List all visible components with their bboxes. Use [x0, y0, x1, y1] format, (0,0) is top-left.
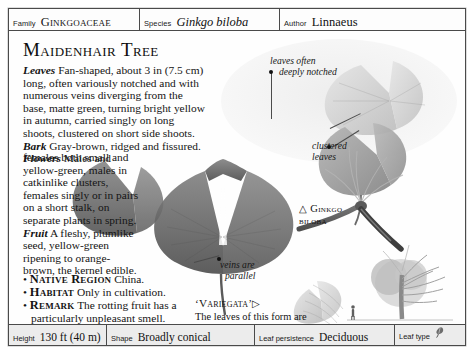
footer-cell-leaf-persistence: Leaf persistence Deciduous — [254, 325, 394, 345]
annotation-leaves-deeply-notched: leaves often deeply notched — [270, 56, 337, 77]
human-scale-figure — [351, 305, 355, 320]
description-bark-text: Gray-brown, ridged and fissured. — [49, 140, 201, 152]
triangle-marker-icon: △ — [299, 204, 307, 214]
footer-row: Height 130 ft (40 m) Shape Broadly conic… — [9, 324, 465, 345]
bullet-term-habitat: Habitat — [30, 285, 74, 299]
header-cell-author: Author Linnaeus — [279, 9, 465, 30]
right-triangle-marker-icon: ▷ — [252, 299, 260, 309]
footer-value-leaf-persistence: Deciduous — [319, 331, 368, 343]
footer-value-shape: Broadly conical — [138, 331, 211, 343]
annotation-clustered-line2: leaves — [312, 152, 347, 163]
leader-line-clustered — [330, 113, 361, 129]
header-row: Family Ginkgoaceae Species Ginkgo biloba… — [9, 9, 465, 31]
annotation-clustered-leaves: clustered leaves — [312, 141, 347, 162]
footer-cell-height: Height 130 ft (40 m) — [9, 325, 106, 345]
tree-habit-illustration — [347, 245, 453, 320]
header-value-author: Linnaeus — [312, 15, 358, 30]
annotation-notched-line2: deeply notched — [279, 67, 337, 78]
page-title: Maidenhair Tree — [23, 39, 159, 61]
footer-cell-shape: Shape Broadly conical — [106, 325, 254, 345]
variegata-caption-title: ‘Variegata’ — [195, 297, 252, 309]
header-label-species: Species — [144, 19, 171, 28]
variegata-caption-body: The leaves of this form are banded with … — [195, 311, 310, 325]
leader-line-veins — [194, 255, 219, 263]
entry-body: Maidenhair Tree Leaves Fan-shaped, about… — [9, 31, 465, 324]
specimen-caption: △ Ginkgo biloba — [299, 203, 342, 227]
leader-line-notched — [271, 73, 272, 119]
annotation-clustered-line1: clustered — [312, 141, 347, 152]
footer-value-height: 130 ft (40 m) — [40, 331, 101, 343]
bullet-text-native-region: China. — [114, 273, 144, 285]
header-value-species: Ginkgo biloba — [176, 15, 248, 30]
description-top: Leaves Fan-shaped, about 3 in (7.5 cm) l… — [23, 64, 206, 165]
header-value-family: Ginkgoaceae — [41, 15, 111, 30]
term-leaves: Leaves — [23, 64, 55, 76]
fan-leaf-icon — [434, 325, 447, 339]
fact-bullet-list: • Native Region China. • Habitat Only in… — [23, 273, 213, 324]
bullet-text-habitat: Only in cultivation. — [77, 286, 166, 298]
annotation-veins-parallel: veins are parallel — [220, 260, 255, 281]
bullet-remark: • Remark The rotting fruit has a particu… — [23, 299, 213, 324]
annotation-notched-line1: leaves often — [270, 56, 337, 67]
annotation-veins-line2: parallel — [225, 271, 255, 282]
specimen-caption-line1: △ Ginkgo — [299, 203, 342, 215]
specimen-caption-genus: Ginkgo — [310, 203, 342, 214]
term-fruit: Fruit — [23, 227, 48, 239]
description-bottom: females both small and yellow-green, mal… — [23, 151, 141, 277]
variegata-caption: ‘Variegata’▷ The leaves of this form are… — [195, 298, 313, 324]
footer-label-height: Height — [13, 334, 35, 343]
entry-plate: Family Ginkgoaceae Species Ginkgo biloba… — [8, 8, 466, 346]
description-bottom-text: females both small and yellow-green, mal… — [23, 151, 138, 226]
specimen-caption-species: biloba — [299, 215, 342, 226]
field-guide-page: Family Ginkgoaceae Species Ginkgo biloba… — [0, 0, 474, 356]
footer-label-shape: Shape — [111, 334, 133, 343]
header-label-family: Family — [13, 19, 36, 28]
header-cell-family: Family Ginkgoaceae — [9, 9, 139, 30]
header-cell-species: Species Ginkgo biloba — [139, 9, 279, 30]
dark-twig — [361, 209, 401, 249]
footer-cell-leaf-type: Leaf type — [394, 325, 465, 345]
footer-label-leaf-type: Leaf type — [399, 332, 430, 341]
term-bark: Bark — [23, 140, 46, 152]
bullet-term-native-region: Native Region — [30, 272, 111, 286]
header-label-author: Author — [284, 19, 307, 28]
annotation-veins-line1: veins are — [220, 260, 255, 271]
bullet-term-remark: Remark — [30, 298, 75, 312]
footer-label-leaf-persistence: Leaf persistence — [259, 334, 314, 343]
